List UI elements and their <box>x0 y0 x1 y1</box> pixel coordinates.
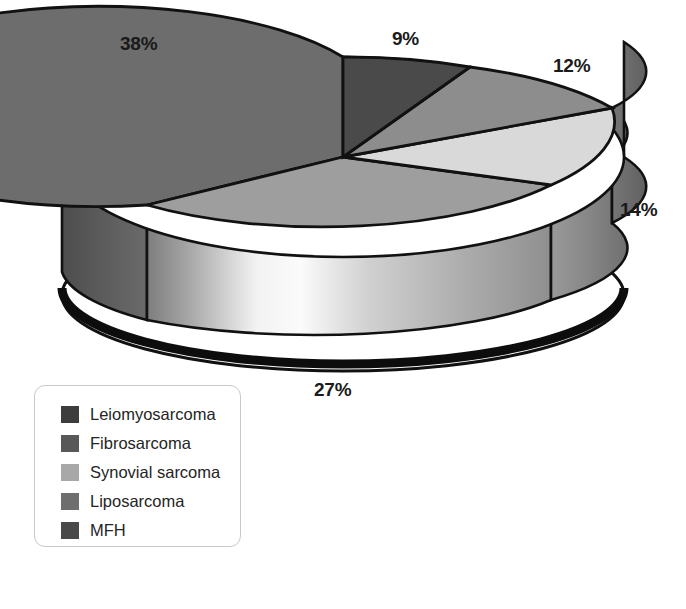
legend-item-synovial-sarcoma: Synovial sarcoma <box>61 458 241 487</box>
legend-item-list: Leiomyosarcoma Fibrosarcoma Synovial sar… <box>61 400 241 545</box>
legend-label: Liposarcoma <box>90 493 184 510</box>
legend-swatch-icon <box>61 406 79 423</box>
legend-label: Synovial sarcoma <box>90 464 220 481</box>
legend-swatch-icon <box>61 493 79 510</box>
legend-label: MFH <box>90 522 126 539</box>
pie-label-synovial-sarcoma: 14% <box>620 199 657 221</box>
legend-swatch-icon <box>61 435 79 452</box>
legend-item-liposarcoma: Liposarcoma <box>61 487 241 516</box>
legend-swatch-icon <box>61 522 79 539</box>
pie-label-mfh: 38% <box>120 33 157 55</box>
legend-item-fibrosarcoma: Fibrosarcoma <box>61 429 241 458</box>
legend-label: Fibrosarcoma <box>90 435 191 452</box>
pie-label-fibrosarcoma: 12% <box>553 55 590 77</box>
legend-item-mfh: MFH <box>61 516 241 545</box>
pie-chart-figure: 38% 9% 12% 14% 27% Leiomyosarcoma Fibros… <box>0 0 686 609</box>
chart-legend: Leiomyosarcoma Fibrosarcoma Synovial sar… <box>34 385 241 547</box>
pie-label-leiomyosarcoma: 9% <box>392 28 419 50</box>
legend-label: Leiomyosarcoma <box>90 406 216 423</box>
pie-label-liposarcoma: 27% <box>314 379 351 401</box>
legend-swatch-icon <box>61 464 79 481</box>
legend-item-leiomyosarcoma: Leiomyosarcoma <box>61 400 241 429</box>
